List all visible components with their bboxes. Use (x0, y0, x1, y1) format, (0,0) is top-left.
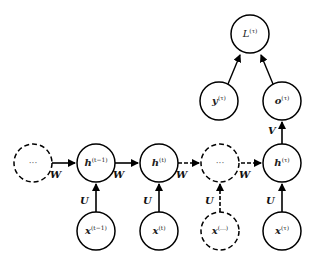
edge-y-to-l (228, 55, 240, 84)
label-w-2: W (176, 169, 189, 180)
node-h-t: h(t) (140, 144, 178, 182)
node-h-dots: ··· (201, 144, 239, 182)
svg-text:···: ··· (29, 158, 38, 168)
label-w-3: W (239, 169, 252, 180)
node-x-t: x(t) (140, 212, 178, 250)
label-u-1: U (143, 195, 153, 206)
node-x-t-minus-1: x(t−1) (77, 212, 115, 250)
label-w-0: W (50, 169, 63, 180)
svg-text:···: ··· (216, 158, 225, 168)
node-o-tau: o(τ) (263, 82, 301, 120)
label-w-1: W (113, 169, 126, 180)
node-x-tau: x(τ) (263, 212, 301, 250)
label-u-2: U (205, 195, 215, 206)
node-l-tau: L(τ) (231, 15, 269, 53)
edge-o-to-l (261, 55, 273, 84)
label-u-3: U (266, 195, 276, 206)
label-u-0: U (80, 195, 90, 206)
node-h-prev-dots: ··· (14, 144, 52, 182)
label-v: V (268, 125, 277, 136)
nodes: ··· h(t−1) h(t) ··· h(τ) x(t−1) x(t) (14, 15, 301, 250)
node-x-dots: x(...) (201, 212, 239, 250)
rnn-diagram: W W W W U U U U V ··· h(t−1) h(t) ··· (0, 0, 316, 258)
edges (52, 55, 282, 212)
node-y-tau: y(τ) (200, 82, 238, 120)
node-h-tau: h(τ) (263, 144, 301, 182)
node-h-t-minus-1: h(t−1) (77, 144, 115, 182)
